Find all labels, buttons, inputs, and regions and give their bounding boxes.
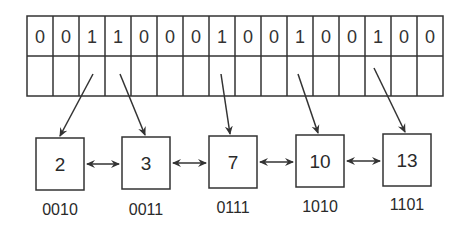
node-value: 3 [141, 153, 152, 174]
bit-cell: 0 [61, 27, 71, 47]
bit-cell: 1 [87, 27, 97, 47]
node-value: 7 [228, 152, 239, 173]
pointer-arrows [60, 68, 405, 136]
node-binary-label: 0010 [42, 201, 78, 218]
bit-cell: 1 [295, 27, 305, 47]
bit-cell: 1 [217, 27, 227, 47]
pointer-arrow [120, 74, 145, 135]
bit-cell: 0 [399, 27, 409, 47]
pointer-arrow [60, 74, 93, 136]
node-binary-label: 0111 [216, 199, 249, 216]
binary-labels: 0010 0011 0111 1010 1101 [42, 196, 424, 218]
bitmap-linked-list-diagram: 0 0 1 1 0 0 0 1 0 0 1 0 0 1 0 0 [0, 0, 463, 228]
bit-cell: 0 [243, 27, 253, 47]
pointer-arrow [298, 74, 318, 133]
bit-cell: 0 [269, 27, 279, 47]
node-values: 2 3 7 10 13 [55, 150, 418, 175]
bit-cell: 0 [347, 27, 357, 47]
node-value: 2 [55, 154, 66, 175]
node-binary-label: 1101 [390, 196, 425, 213]
bit-cell: 0 [165, 27, 175, 47]
bit-cell: 0 [425, 27, 435, 47]
bit-cell: 0 [35, 27, 45, 47]
bit-cell: 0 [139, 27, 149, 47]
node-binary-label: 0011 [129, 201, 164, 218]
node-value: 10 [309, 151, 330, 172]
node-value: 13 [396, 150, 417, 171]
pointer-arrow [221, 74, 230, 134]
bit-cell: 1 [373, 27, 383, 47]
node-binary-label: 1010 [302, 198, 338, 215]
bit-cell: 1 [113, 27, 123, 47]
pointer-arrow [374, 68, 405, 132]
bit-cell: 0 [321, 27, 331, 47]
bit-cell: 0 [191, 27, 201, 47]
